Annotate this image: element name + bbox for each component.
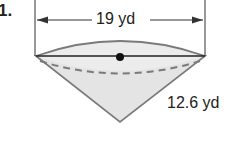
arrow-right-icon	[192, 17, 203, 24]
diameter-label: 19 yd	[96, 11, 135, 27]
slant-height-label: 12.6 yd	[167, 95, 219, 111]
arrow-left-icon	[37, 17, 48, 24]
center-point	[116, 53, 124, 61]
